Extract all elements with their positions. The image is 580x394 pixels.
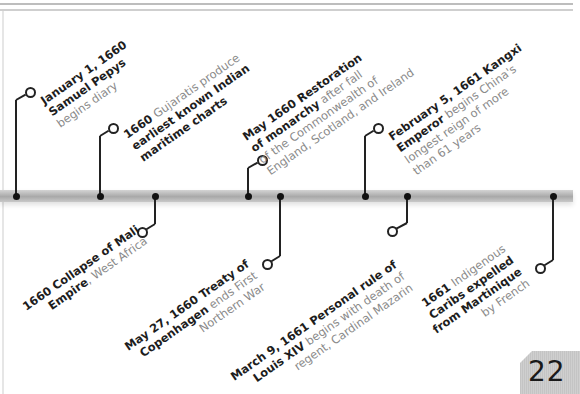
event-label-bold-text: 1660 Collapse of Mali bbox=[20, 222, 142, 313]
event-dot bbox=[97, 193, 104, 200]
event-stem bbox=[552, 196, 554, 260]
left-border-rule bbox=[2, 11, 4, 394]
event-stem bbox=[99, 136, 101, 196]
event-label: 1661 IndigenousCaribs expelledfrom Marti… bbox=[414, 242, 532, 348]
timeline-bar bbox=[0, 190, 573, 202]
event-circle-icon bbox=[373, 123, 384, 134]
event-label-line: regent, Cardinal Mazarin bbox=[244, 281, 415, 394]
event-label-line: Copenhagen ends First bbox=[130, 268, 260, 365]
top-border-rule bbox=[0, 3, 573, 5]
event-dot bbox=[362, 193, 369, 200]
event-dot bbox=[13, 193, 20, 200]
event-dot bbox=[404, 193, 411, 200]
event-label-line: earliest known Indian bbox=[129, 61, 252, 153]
event-label: May 1660 Restorationof monarchy after fa… bbox=[240, 31, 417, 178]
event-dot bbox=[550, 193, 557, 200]
event-connector bbox=[396, 222, 408, 229]
event-circle-icon bbox=[108, 123, 119, 134]
event-label: February 5, 1661 KangxiEmperor begins Ch… bbox=[386, 41, 548, 178]
event-stem bbox=[247, 168, 249, 196]
event-label: 1660 Collapse of MaliEmpire, West Africa bbox=[20, 222, 150, 325]
event-label-line: 1660 Collapse of Mali bbox=[20, 222, 142, 313]
event-circle-icon bbox=[387, 226, 398, 237]
event-dot bbox=[277, 193, 284, 200]
event-label-line: Empire, West Africa bbox=[28, 234, 150, 325]
event-dot bbox=[245, 193, 252, 200]
page-number: 22 bbox=[528, 355, 566, 388]
event-stem bbox=[154, 196, 156, 224]
event-label-bold-text: earliest known Indian bbox=[129, 61, 252, 153]
event-stem bbox=[279, 196, 281, 256]
event-circle-icon bbox=[535, 263, 546, 274]
event-dot bbox=[152, 193, 159, 200]
event-stem bbox=[364, 136, 366, 196]
event-stem bbox=[15, 100, 17, 196]
event-circle-icon bbox=[25, 87, 36, 98]
event-label: January 1, 1660Samuel Pepysbegins diary bbox=[38, 38, 145, 131]
event-stem bbox=[406, 196, 408, 223]
top-border-rule-inner bbox=[0, 9, 573, 11]
event-circle-icon bbox=[262, 259, 273, 270]
